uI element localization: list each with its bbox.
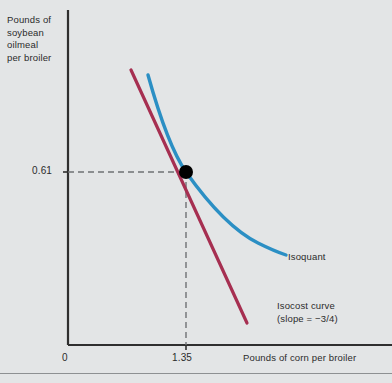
isoquant-annotation: Isoquant — [288, 251, 326, 264]
isocost-curve-line — [131, 70, 247, 323]
y-tick-label-0: 0.61 — [32, 165, 52, 178]
isocost-annotation-line1: Isocost curve — [277, 300, 335, 311]
isocost-annotation-line2: (slope = −3/4) — [277, 313, 338, 324]
x-tick-label-1: 1.35 — [172, 352, 192, 365]
isoquant-curve-line — [148, 75, 286, 255]
x-tick-label-0: 0 — [62, 352, 68, 365]
isocost-annotation: Isocost curve(slope = −3/4) — [277, 300, 338, 325]
x-axis-label: Pounds of corn per broiler — [243, 352, 356, 365]
bottom-divider-rule — [0, 373, 392, 374]
isoquant-isocost-chart: Pounds of soybean oilmeal per broiler 0.… — [0, 0, 392, 383]
y-axis-label: Pounds of soybean oilmeal per broiler — [7, 14, 65, 64]
tangency-point-marker — [179, 165, 193, 179]
